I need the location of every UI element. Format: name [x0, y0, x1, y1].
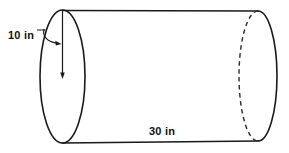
- cylinder-bottom-edge: [63, 141, 259, 143]
- radius-label: 10 in: [8, 30, 34, 41]
- cylinder-drawing: [0, 0, 289, 153]
- cylinder-top-edge: [63, 11, 259, 12]
- cylinder-far-face-hidden-arc: [239, 11, 258, 141]
- cylinder-far-face-visible-arc: [258, 11, 277, 141]
- radius-arrowhead-icon: [60, 73, 65, 80]
- length-label: 30 in: [149, 126, 175, 137]
- radius-leader-arrowhead-icon: [55, 41, 61, 46]
- cylinder-figure: 10 in 30 in: [0, 0, 289, 153]
